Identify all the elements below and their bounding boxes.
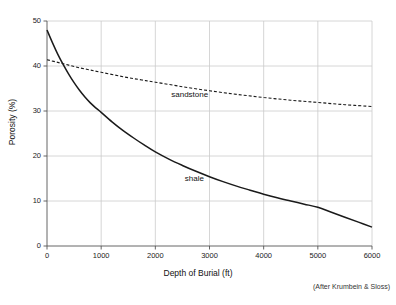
- y-tick-label-20: 20: [13, 152, 41, 160]
- x-tick-label-4000: 4000: [244, 252, 284, 260]
- y-tick-label-30: 30: [13, 107, 41, 115]
- x-tick-label-5000: 5000: [298, 252, 338, 260]
- tick-marks: [44, 21, 373, 250]
- x-axis-title: Depth of Burial (ft): [0, 268, 396, 278]
- y-tick-label-10: 10: [13, 197, 41, 205]
- x-tick-label-6000: 6000: [352, 252, 392, 260]
- x-tick-label-0: 0: [27, 252, 67, 260]
- y-tick-label-40: 40: [13, 62, 41, 70]
- attribution-note: (After Krumbein & Sloss): [313, 283, 390, 290]
- x-tick-label-3000: 3000: [190, 252, 230, 260]
- y-tick-label-0: 0: [13, 242, 41, 250]
- porosity-depth-chart: 01020304050 0100020003000400050006000 sa…: [0, 0, 396, 305]
- series-label-shale: shale: [185, 174, 204, 183]
- y-tick-label-50: 50: [13, 17, 41, 25]
- y-axis-title: Porosity (%): [7, 77, 17, 167]
- grid-lines: [47, 21, 372, 246]
- x-tick-label-2000: 2000: [135, 252, 175, 260]
- series-label-sandstone: sandstone: [171, 90, 208, 99]
- x-tick-label-1000: 1000: [81, 252, 121, 260]
